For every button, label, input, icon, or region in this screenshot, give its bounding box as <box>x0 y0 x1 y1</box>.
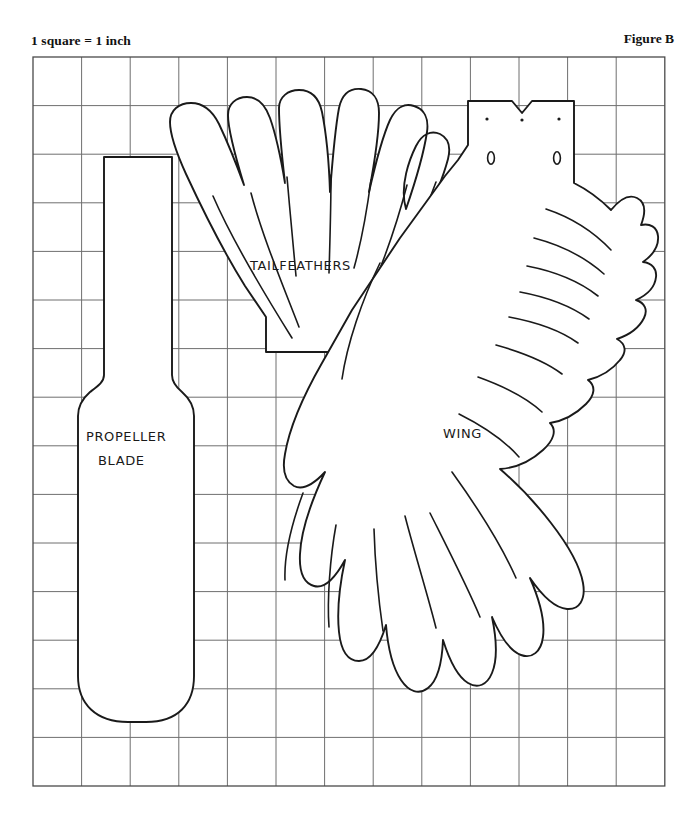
tailfeathers-label: TAILFEATHERS <box>249 258 351 273</box>
wing-dot-mark-left <box>485 117 488 120</box>
figure-page: 1 square = 1 inch Figure B PROPELLER BLA… <box>0 0 698 816</box>
pattern-diagram: PROPELLER BLADE TAILFEATHERS <box>0 0 698 816</box>
wing-label: WING <box>443 426 482 441</box>
wing-dot-mark-right <box>557 117 560 120</box>
piece-propeller-blade: PROPELLER BLADE <box>78 157 194 722</box>
propeller-blade-label-line2: BLADE <box>98 453 145 468</box>
wing-dot-mark-center <box>520 118 523 121</box>
propeller-blade-label-line1: PROPELLER <box>86 429 166 444</box>
